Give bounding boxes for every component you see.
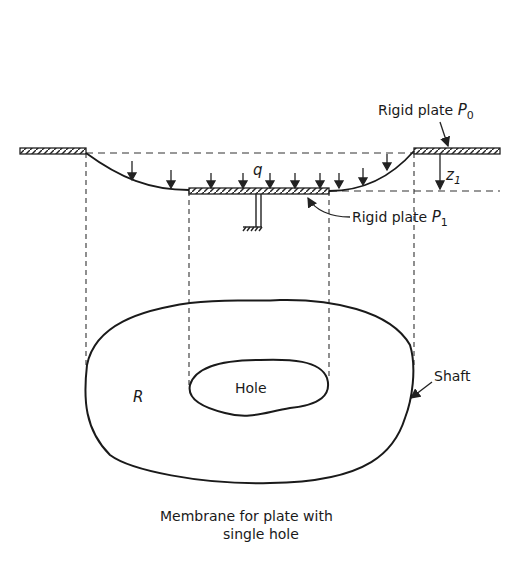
label-rigid-plate-p0: Rigid plate P0 xyxy=(378,101,474,122)
label-z1: z1 xyxy=(445,166,461,187)
z1-dimension-arrow xyxy=(436,154,444,189)
rigid-plate-p0-left xyxy=(20,148,86,154)
rigid-plate-p0-right xyxy=(414,148,500,154)
support-post xyxy=(243,194,262,231)
caption-line-1: Membrane for plate with xyxy=(160,508,333,524)
membrane-curve xyxy=(86,151,414,191)
label-load-q: q xyxy=(253,161,263,179)
membrane-diagram: Rigid plate P0 q z1 Rigid plate P1 R Hol… xyxy=(0,0,511,565)
label-region-r: R xyxy=(133,388,143,406)
label-shaft: Shaft xyxy=(434,368,471,384)
label-rigid-plate-p1: Rigid plate P1 xyxy=(352,208,448,229)
caption-line-2: single hole xyxy=(223,526,299,542)
label-hole: Hole xyxy=(235,380,267,396)
rigid-plate-p1 xyxy=(189,188,329,194)
